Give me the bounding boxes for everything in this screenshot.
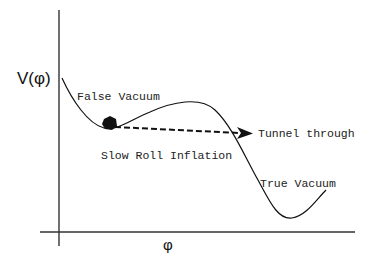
x-axis-label: φ [163,236,173,253]
true-vacuum-label: True Vacuum [260,177,336,190]
slow-roll-label: Slow Roll Inflation [101,149,232,162]
y-axis-label: V(φ) [17,69,51,88]
tunnel-label: Tunnel through [258,127,355,140]
potential-diagram: V(φ) φ False Vacuum Tunnel through Slow … [0,0,381,267]
tunnel-arrow-line [115,127,240,133]
arrow-head-icon [237,127,253,139]
false-vacuum-label: False Vacuum [77,90,160,103]
